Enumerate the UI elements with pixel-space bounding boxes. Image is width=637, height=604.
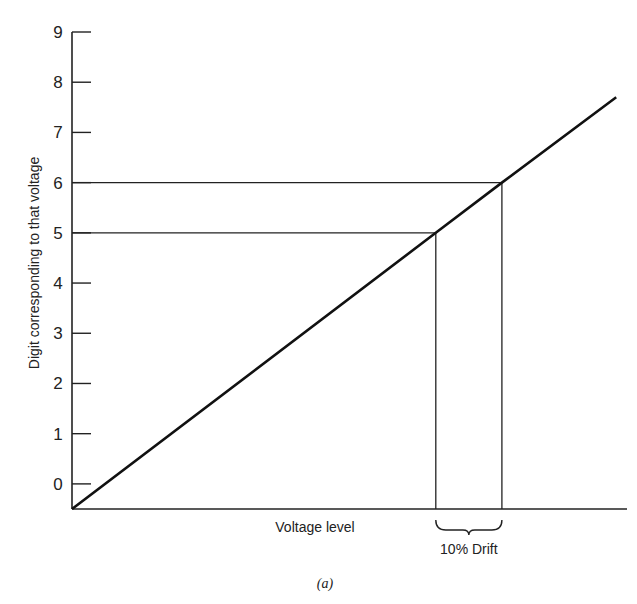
y-tick-label: 1 — [53, 425, 62, 444]
drift-label: 10% Drift — [440, 541, 498, 557]
y-axis-label: Digit corresponding to that voltage — [26, 157, 42, 370]
series — [72, 97, 616, 509]
drift-annotation: 10% Drift — [436, 520, 502, 557]
x-axis-label: Voltage level — [275, 519, 354, 535]
y-tick-label: 0 — [53, 475, 62, 494]
y-tick-label: 5 — [53, 224, 62, 243]
y-tick-label: 4 — [53, 274, 62, 293]
chart: 0123456789 10% Drift Voltage level Digit… — [0, 0, 637, 604]
y-tick-label: 6 — [53, 174, 62, 193]
y-tick-label: 9 — [53, 23, 62, 42]
y-tick-label: 2 — [53, 374, 62, 393]
y-tick-label: 8 — [53, 73, 62, 92]
figure-caption: (a) — [317, 576, 334, 592]
y-tick-label: 3 — [53, 324, 62, 343]
drift-brace — [436, 520, 502, 535]
y-tick-label: 7 — [53, 123, 62, 142]
transfer-line — [72, 97, 616, 509]
axes — [72, 32, 627, 509]
